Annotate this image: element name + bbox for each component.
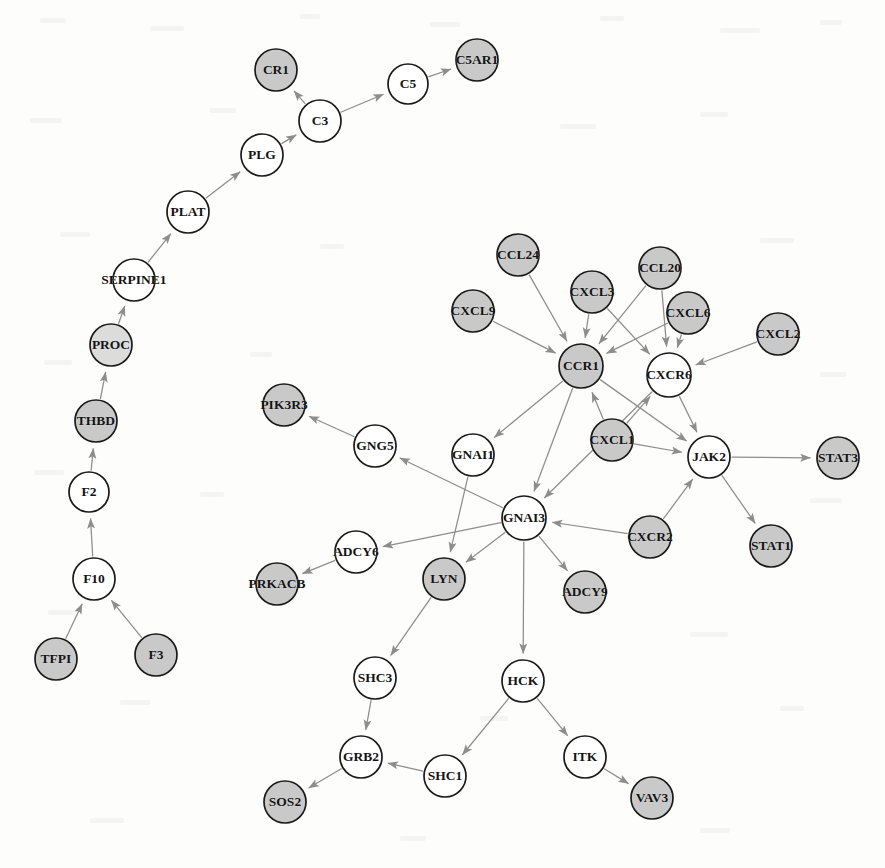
node-label-lyn: LYN: [430, 571, 458, 586]
node-c5ar1[interactable]: C5AR1: [456, 39, 499, 81]
edge-shc3-to-grb2: [366, 700, 371, 730]
node-layer: CR1C5C5AR1C3PLGPLATSERPINE1PROCTHBDF2F10…: [35, 39, 859, 823]
node-cxcl2[interactable]: CXCL2: [755, 313, 800, 355]
node-gnai1[interactable]: GNAI1: [452, 434, 494, 476]
node-stat3[interactable]: STAT3: [817, 437, 859, 479]
edge-hck-to-shc1: [462, 698, 508, 754]
edge-thbd-to-proc: [100, 372, 105, 399]
node-label-prkacb: PRKACB: [249, 576, 306, 591]
node-label-jak2: JAK2: [692, 449, 726, 464]
node-cxcr2[interactable]: CXCR2: [627, 516, 673, 558]
node-gnai3[interactable]: GNAI3: [502, 496, 546, 540]
edge-cxcr2-to-jak2: [663, 479, 692, 519]
edge-gnai3-to-adcy9: [539, 536, 568, 571]
node-f2[interactable]: F2: [69, 472, 109, 512]
edge-c3-to-c5: [341, 94, 384, 112]
node-label-gnai3: GNAI3: [503, 510, 545, 525]
edge-lyn-to-shc3: [391, 597, 431, 655]
node-tfpi[interactable]: TFPI: [35, 638, 77, 680]
node-label-cxcl2: CXCL2: [755, 326, 800, 341]
node-label-stat1: STAT1: [751, 538, 791, 553]
node-itk[interactable]: ITK: [564, 736, 606, 778]
node-serpine1[interactable]: SERPINE1: [101, 259, 167, 301]
edge-plat-to-plg: [206, 172, 240, 198]
node-prkacb[interactable]: PRKACB: [249, 563, 306, 605]
node-label-plg: PLG: [248, 147, 276, 162]
edge-cxcl6-to-cxcr6: [677, 335, 681, 348]
node-label-cxcr2: CXCR2: [627, 529, 673, 544]
edge-tfpi-to-f10: [66, 604, 83, 639]
edge-ccl24-to-ccr1: [529, 275, 567, 342]
node-label-pik3r3: PIK3R3: [260, 397, 308, 412]
edge-cxcl3-to-ccr1: [585, 314, 589, 338]
node-plg[interactable]: PLG: [241, 134, 283, 176]
node-lyn[interactable]: LYN: [423, 558, 465, 600]
node-proc[interactable]: PROC: [90, 324, 132, 366]
node-adcy6[interactable]: ADCY6: [333, 531, 379, 573]
node-cxcr6[interactable]: CXCR6: [646, 353, 692, 397]
edge-cxcl6-to-ccr1: [607, 323, 668, 353]
node-label-cxcl1: CXCL1: [589, 432, 634, 447]
edge-c3-to-cr1: [294, 91, 305, 104]
edge-cxcl2-to-cxcr6: [696, 342, 757, 365]
node-cxcl1[interactable]: CXCL1: [589, 419, 634, 461]
node-label-ccr1: CCR1: [563, 358, 599, 373]
edge-itk-to-vav3: [604, 769, 628, 784]
node-label-f10: F10: [83, 571, 105, 586]
node-c3[interactable]: C3: [299, 100, 341, 142]
node-label-proc: PROC: [92, 337, 130, 352]
node-f10[interactable]: F10: [73, 558, 115, 600]
edge-cxcl1-to-ccr1: [592, 392, 603, 419]
edge-proc-to-serpine1: [119, 306, 125, 324]
edge-f10-to-f2: [91, 518, 93, 556]
node-label-gnai1: GNAI1: [452, 447, 494, 462]
node-c5[interactable]: C5: [388, 64, 428, 104]
node-cr1[interactable]: CR1: [255, 49, 297, 91]
edge-serpine1-to-plat: [148, 234, 171, 263]
edge-c5-to-c5ar1: [428, 69, 451, 77]
node-ccr1[interactable]: CCR1: [559, 344, 603, 388]
node-f3[interactable]: F3: [135, 634, 177, 676]
node-stat1[interactable]: STAT1: [750, 525, 792, 567]
node-label-vav3: VAV3: [636, 790, 669, 805]
node-cxcl6[interactable]: CXCL6: [665, 292, 710, 334]
node-shc3[interactable]: SHC3: [354, 657, 396, 699]
node-cxcl3[interactable]: CXCL3: [569, 271, 614, 313]
node-shc1[interactable]: SHC1: [424, 755, 466, 797]
node-cxcl9[interactable]: CXCL9: [450, 290, 495, 332]
node-label-serpine1: SERPINE1: [101, 272, 167, 287]
node-sos2[interactable]: SOS2: [264, 781, 306, 823]
node-label-tfpi: TFPI: [41, 651, 72, 666]
node-jak2[interactable]: JAK2: [688, 436, 730, 478]
node-label-shc3: SHC3: [358, 670, 393, 685]
edge-cxcl9-to-ccr1: [493, 321, 556, 353]
edge-cxcl1-to-jak2: [634, 444, 682, 452]
edge-gnai1-to-lyn: [450, 477, 468, 552]
node-hck[interactable]: HCK: [502, 660, 544, 702]
node-thbd[interactable]: THBD: [75, 400, 117, 442]
node-ccl24[interactable]: CCL24: [497, 234, 539, 276]
network-diagram-canvas: CR1C5C5AR1C3PLGPLATSERPINE1PROCTHBDF2F10…: [0, 0, 885, 868]
node-label-itk: ITK: [573, 749, 598, 764]
edge-cxcr2-to-gnai3: [552, 522, 628, 533]
edge-gnai3-to-adcy6: [383, 523, 501, 547]
edge-f2-to-thbd: [91, 448, 93, 470]
node-label-sos2: SOS2: [269, 794, 302, 809]
node-label-ccl24: CCL24: [497, 247, 539, 262]
node-plat[interactable]: PLAT: [167, 191, 209, 233]
node-label-f2: F2: [82, 484, 97, 499]
node-gng5[interactable]: GNG5: [354, 425, 396, 467]
edge-adcy6-to-prkacb: [302, 560, 335, 573]
node-label-f3: F3: [149, 647, 164, 662]
node-ccl20[interactable]: CCL20: [639, 247, 681, 289]
node-label-c3: C3: [312, 113, 329, 128]
node-label-adcy6: ADCY6: [333, 544, 379, 559]
node-label-cxcl6: CXCL6: [665, 305, 710, 320]
node-label-ccl20: CCL20: [639, 260, 681, 275]
node-label-plat: PLAT: [170, 204, 205, 219]
node-grb2[interactable]: GRB2: [340, 736, 382, 778]
node-pik3r3[interactable]: PIK3R3: [260, 384, 308, 426]
node-vav3[interactable]: VAV3: [631, 777, 673, 819]
edge-shc1-to-grb2: [388, 763, 423, 771]
node-adcy9[interactable]: ADCY9: [562, 571, 608, 613]
